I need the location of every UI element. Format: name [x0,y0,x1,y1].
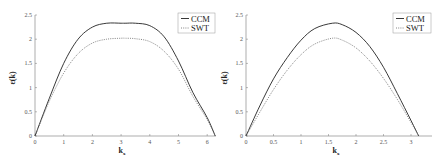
right-y-label: ε(k) [220,71,229,85]
y-tick-label: 0.5 [25,109,33,115]
x-tick-label: 0.5 [270,139,278,145]
x-tick-label: 3 [410,139,413,145]
x-tick-label: 2 [355,139,358,145]
y-tick-label: 2 [29,36,32,42]
y-tick-label: 0 [240,133,243,139]
x-tick-label: 1 [300,139,303,145]
legend-swt: SWT [406,23,425,33]
x-tick-label: 0 [245,139,248,145]
x-tick-label: 0 [34,139,37,145]
y-tick-label: 0 [29,133,32,139]
x-tick-label: 2.5 [380,139,388,145]
legend-ccm: CCM [191,14,210,24]
y-tick-label: 1.5 [236,60,244,66]
x-tick-label: 1.5 [325,139,333,145]
legend-swt: SWT [191,23,210,33]
y-tick-label: 2 [240,36,243,42]
y-tick-label: 1 [29,85,32,91]
right-legend: CCM SWT [393,13,431,33]
x-tick-label: 1 [62,139,65,145]
x-tick-label: 3 [120,139,123,145]
x-tick-label: 4 [148,139,151,145]
right-ccm-line [246,23,419,136]
y-tick-label: 0.5 [236,109,244,115]
left-x-label: kx [119,146,126,156]
legend-ccm: CCM [406,14,425,24]
right-swt-line [246,38,419,136]
right-chart: 00.511.522.5 00.511.522.53 ε(k) kx CCM S… [220,12,432,156]
y-tick-label: 2.5 [236,12,244,18]
x-tick-label: 2 [91,139,94,145]
left-chart: 00.511.522.5 0123456 ε(k) kx CCM SWT [8,12,216,156]
y-tick-label: 1.5 [25,60,33,66]
left-legend: CCM SWT [178,13,215,33]
figure: 00.511.522.5 0123456 ε(k) kx CCM SWT 00.… [0,0,445,162]
right-x-label: kx [333,146,340,156]
y-tick-label: 2.5 [25,12,33,18]
y-tick-label: 1 [240,85,243,91]
left-ccm-line [35,23,215,136]
left-swt-line [35,38,215,136]
left-y-label: ε(k) [8,71,17,85]
x-tick-label: 5 [177,139,180,145]
x-tick-label: 6 [206,139,209,145]
